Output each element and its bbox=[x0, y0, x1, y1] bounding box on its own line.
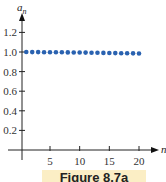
y-tick-label: 0.4 bbox=[3, 105, 17, 117]
x-tick-label: 10 bbox=[74, 155, 86, 167]
data-point bbox=[30, 50, 35, 55]
figure-caption: Figure 8.7a bbox=[42, 170, 146, 182]
data-point bbox=[113, 51, 118, 56]
data-point bbox=[83, 50, 88, 55]
data-point bbox=[24, 50, 29, 55]
y-tick-label: 0.8 bbox=[3, 66, 17, 78]
axes: ann0.20.40.60.81.01.25101520 bbox=[3, 1, 166, 167]
data-point bbox=[125, 51, 130, 56]
data-point bbox=[66, 50, 71, 55]
data-point bbox=[107, 51, 112, 56]
data-point bbox=[137, 51, 142, 56]
data-point bbox=[101, 51, 106, 56]
y-tick-label: 0.6 bbox=[3, 85, 17, 97]
x-tick-label: 20 bbox=[134, 155, 146, 167]
y-tick-label: 1.0 bbox=[3, 46, 17, 58]
x-axis-label: n bbox=[161, 143, 166, 155]
data-point bbox=[89, 50, 94, 55]
x-axis-arrow-icon bbox=[151, 147, 159, 153]
data-point bbox=[131, 51, 136, 56]
y-axis-label: an bbox=[17, 1, 27, 16]
data-point bbox=[77, 50, 82, 55]
data-point bbox=[71, 50, 76, 55]
data-point bbox=[54, 50, 59, 55]
data-point bbox=[48, 50, 53, 55]
y-tick-label: 1.2 bbox=[3, 26, 17, 38]
data-point bbox=[60, 50, 65, 55]
data-point bbox=[95, 50, 100, 55]
x-tick-label: 15 bbox=[104, 155, 116, 167]
chart: ann0.20.40.60.81.01.25101520 bbox=[0, 0, 166, 182]
data-points bbox=[24, 50, 141, 56]
y-tick-label: 0.2 bbox=[3, 124, 17, 136]
data-point bbox=[42, 50, 47, 55]
x-tick-label: 5 bbox=[47, 155, 53, 167]
data-point bbox=[36, 50, 41, 55]
data-point bbox=[119, 51, 124, 56]
